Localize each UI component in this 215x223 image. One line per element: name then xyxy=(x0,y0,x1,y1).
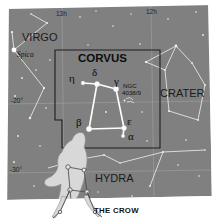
star-spica xyxy=(12,48,17,53)
dec-tick-label-minus20: -20° xyxy=(11,97,23,104)
star-delta xyxy=(94,81,99,86)
inset-title-corvus: CORVUS xyxy=(78,52,127,64)
constellation-label-hydra: HYDRA xyxy=(95,172,134,184)
constellation-label-virgo: VIRGO xyxy=(22,31,58,43)
crater-stars xyxy=(145,61,147,63)
star-label-alpha: α xyxy=(128,130,134,142)
star-chart-svg: 13h 12h -20° -30° VIRGO CRATER HYDRA Spi… xyxy=(0,0,215,223)
dso-label-ngc-line1: NGC xyxy=(123,82,137,89)
ra-tick-label-12h: 12h xyxy=(146,8,157,15)
dec-tick-label-minus30: -30° xyxy=(10,166,22,173)
star-beta xyxy=(86,126,91,131)
star-alpha xyxy=(121,134,124,137)
star-label-gamma: γ xyxy=(113,75,119,87)
star-label-beta: β xyxy=(76,116,82,128)
star-eta xyxy=(81,81,85,85)
star-label-eta: η xyxy=(69,72,75,84)
star-gamma xyxy=(113,86,118,91)
star-epsilon xyxy=(122,126,127,131)
dso-label-ngc-line2: 4038/9 xyxy=(122,89,141,96)
star-chart-figure: 13h 12h -20° -30° VIRGO CRATER HYDRA Spi… xyxy=(0,0,215,223)
constellation-label-crater: CRATER xyxy=(160,87,204,99)
star-label-delta: δ xyxy=(92,66,97,78)
ra-tick-label-13h: 13h xyxy=(56,10,67,17)
line-beta-epsilon xyxy=(89,128,124,129)
figure-caption: THE CROW xyxy=(94,206,139,215)
star-label-spica: Spica xyxy=(17,50,34,59)
star-label-epsilon: ε xyxy=(127,115,132,127)
